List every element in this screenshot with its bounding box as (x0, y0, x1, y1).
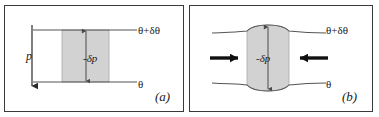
isentrope-label-upper-b: θ+δθ (326, 25, 348, 36)
isentrope-label-lower-a: θ (138, 79, 143, 90)
isentrope-label-upper-a: θ+δθ (138, 25, 160, 36)
pressure-axis-label-a: p (26, 50, 32, 62)
panel-a: θ+δθ θ -δp p (a) (4, 5, 184, 112)
panel-id-label-a: (a) (155, 90, 170, 103)
isentrope-label-lower-b: θ (326, 79, 331, 90)
fluid-element-label-a: -δp (83, 53, 97, 64)
panel-id-label-b: (b) (342, 90, 357, 103)
fluid-element-label-b: -δp (256, 53, 270, 64)
figure-root: θ+δθ θ -δp p (a) (0, 0, 379, 117)
panel-b: θ+δθ θ -δp (b) (189, 5, 373, 112)
